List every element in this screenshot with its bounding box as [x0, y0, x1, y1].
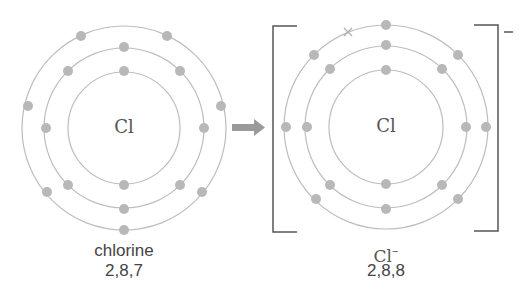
gained-electron-cross-icon — [344, 28, 352, 36]
chlorine-name-label: chlorine — [74, 242, 174, 260]
chloride-charge-superscript: − — [392, 245, 398, 257]
chloride-nucleus-symbol: Cl — [366, 117, 406, 135]
right-arrow-icon — [232, 119, 265, 136]
chloride-configuration-label: 2,8,8 — [336, 262, 436, 280]
chlorine-configuration-label: 2,8,7 — [74, 262, 174, 280]
chlorine-nucleus-symbol: Cl — [104, 118, 144, 136]
